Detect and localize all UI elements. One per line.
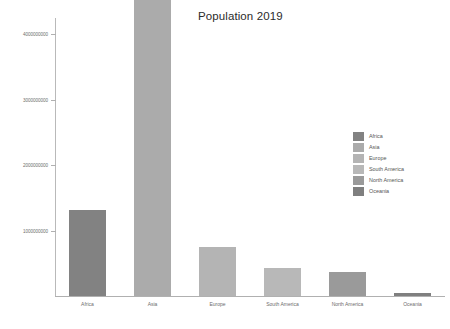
legend-swatch-icon bbox=[353, 187, 364, 197]
legend-item-label: South America bbox=[369, 167, 404, 172]
legend-swatch-icon bbox=[353, 154, 364, 164]
x-axis-tick-label: Africa bbox=[81, 301, 94, 307]
y-axis-tick-label: 1000000000 bbox=[23, 228, 48, 233]
bar-europe bbox=[199, 247, 236, 296]
bar-africa bbox=[69, 210, 106, 296]
legend-item: Europe bbox=[353, 153, 404, 164]
bar-oceania bbox=[394, 293, 431, 296]
legend-item-label: Asia bbox=[369, 145, 380, 150]
x-axis-line bbox=[55, 296, 445, 297]
x-axis-tick-label: South America bbox=[266, 301, 299, 307]
legend-item: Asia bbox=[353, 142, 404, 153]
legend-swatch-icon bbox=[353, 143, 364, 153]
legend-item: North America bbox=[353, 175, 404, 186]
y-axis-tick-label: 3000000000 bbox=[23, 97, 48, 102]
bar-asia bbox=[134, 0, 171, 296]
x-axis-tick-label: Asia bbox=[148, 301, 158, 307]
legend-swatch-icon bbox=[353, 132, 364, 142]
x-axis-tick-label: North America bbox=[332, 301, 364, 307]
legend-swatch-icon bbox=[353, 165, 364, 175]
legend-item-label: North America bbox=[369, 178, 403, 183]
legend-item: South America bbox=[353, 164, 404, 175]
chart-figure: Population 2019 100000000020000000003000… bbox=[0, 0, 450, 329]
y-axis-tick-label: 4000000000 bbox=[23, 32, 48, 37]
legend-item-label: Europe bbox=[369, 156, 386, 161]
bar-north-america bbox=[329, 272, 366, 296]
legend-swatch-icon bbox=[353, 176, 364, 186]
y-axis-tick-label: 2000000000 bbox=[23, 163, 48, 168]
legend-item: Africa bbox=[353, 131, 404, 142]
x-axis-tick-label: Europe bbox=[209, 301, 225, 307]
bar-south-america bbox=[264, 268, 301, 296]
legend-item-label: Africa bbox=[369, 134, 383, 139]
x-axis-tick-label: Oceania bbox=[403, 301, 422, 307]
chart-legend: AfricaAsiaEuropeSouth AmericaNorth Ameri… bbox=[353, 131, 404, 197]
legend-item-label: Oceania bbox=[369, 189, 389, 194]
legend-item: Oceania bbox=[353, 186, 404, 197]
